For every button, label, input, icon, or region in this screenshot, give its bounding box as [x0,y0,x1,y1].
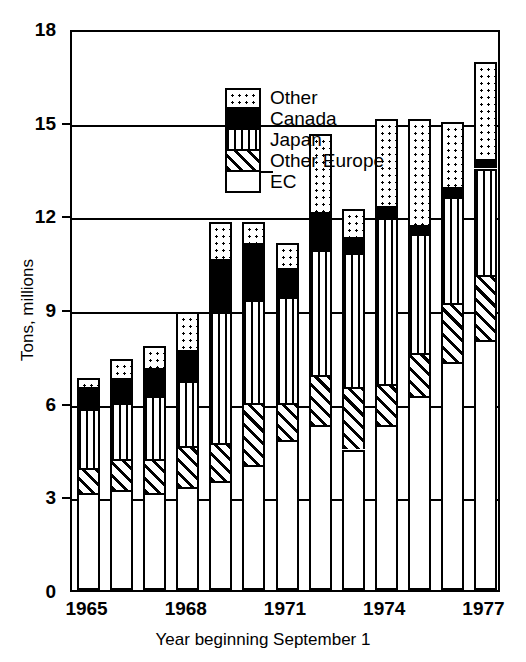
y-tick-label-3: 3 [4,488,56,507]
y-tick-label-18: 18 [4,20,56,39]
bar-segment-1968-ec[interactable] [176,487,199,590]
bar-segment-1976-japan[interactable] [441,197,464,303]
bar-segment-1967-other-europe[interactable] [143,459,166,493]
bar-segment-1972-canada[interactable] [309,212,332,249]
x-axis: 19651968197119741977 [70,596,500,626]
legend-item-other[interactable]: Other [225,88,455,109]
legend-swatch-japan [225,130,261,151]
x-tick-label-1968: 1968 [165,598,207,620]
bar-segment-1968-canada[interactable] [176,350,199,381]
y-tick-label-12: 12 [4,207,56,226]
bar-segment-1977-other[interactable] [474,62,497,159]
bar-segment-1968-other-europe[interactable] [176,446,199,487]
bar-segment-1970-japan[interactable] [242,300,265,403]
bar-segment-1970-other[interactable] [242,222,265,244]
bar-segment-1974-ec[interactable] [375,425,398,590]
legend-label-japan: Japan [270,129,322,150]
x-axis-title: Year beginning September 1 [0,630,526,650]
bar-segment-1968-japan[interactable] [176,381,199,447]
bar-segment-1967-ec[interactable] [143,493,166,590]
bar-segment-1965-canada[interactable] [77,387,100,409]
bar-segment-1974-canada[interactable] [375,206,398,218]
x-tick-label-1971: 1971 [264,598,306,620]
bar-segment-1974-japan[interactable] [375,218,398,383]
bar-segment-1976-other-europe[interactable] [441,303,464,362]
y-axis-title: Tons, millions [18,230,38,390]
bar-segment-1973-canada[interactable] [342,237,365,253]
bar-segment-1976-ec[interactable] [441,362,464,590]
bar-segment-1965-other-europe[interactable] [77,468,100,493]
bar-segment-1974-other-europe[interactable] [375,384,398,425]
legend-label-other: Other [270,87,318,108]
legend-swatch-canada [225,109,261,130]
legend-item-japan[interactable]: Japan [225,130,455,151]
bar-segment-1975-ec[interactable] [408,396,431,590]
y-tick-label-15: 15 [4,114,56,133]
bar-segment-1970-ec[interactable] [242,465,265,590]
bar-segment-1973-ec[interactable] [342,450,365,591]
bar-segment-1966-canada[interactable] [110,378,133,403]
legend-swatch-ec [225,172,261,193]
bar-segment-1973-japan[interactable] [342,253,365,387]
bar-segment-1977-japan[interactable] [474,169,497,275]
bar-segment-1966-ec[interactable] [110,490,133,590]
bar-segment-1969-japan[interactable] [209,312,232,443]
bar-segment-1969-other-europe[interactable] [209,443,232,480]
bar-segment-1969-ec[interactable] [209,481,232,590]
bar-segment-1977-other-europe[interactable] [474,275,497,341]
plot-area: OtherCanadaJapanOther EuropeEC [70,30,500,592]
bar-segment-1975-japan[interactable] [408,234,431,353]
legend-swatch-other [225,88,261,109]
bar-segment-1965-japan[interactable] [77,409,100,468]
x-tick-label-1965: 1965 [65,598,107,620]
bar-1967[interactable] [143,28,166,590]
legend-label-canada: Canada [270,108,337,129]
bar-segment-1977-ec[interactable] [474,340,497,590]
bar-segment-1969-other[interactable] [209,222,232,259]
bar-segment-1966-other-europe[interactable] [110,459,133,490]
y-tick-mark-9 [62,310,70,312]
legend-item-canada[interactable]: Canada [225,109,455,130]
x-tick-label-1974: 1974 [363,598,405,620]
y-tick-mark-3 [62,497,70,499]
bar-segment-1975-other-europe[interactable] [408,353,431,397]
legend-item-ec[interactable]: EC [225,172,455,193]
bar-segment-1965-ec[interactable] [77,493,100,590]
bar-segment-1965-other[interactable] [77,378,100,387]
legend-label-ec: EC [270,171,296,192]
y-tick-mark-6 [62,404,70,406]
bar-segment-1967-canada[interactable] [143,368,166,396]
bar-segment-1972-japan[interactable] [309,250,332,375]
bar-segment-1972-ec[interactable] [309,425,332,590]
bar-segment-1972-other-europe[interactable] [309,375,332,425]
bar-segment-1973-other[interactable] [342,209,365,237]
bar-segment-1971-canada[interactable] [276,268,299,296]
bar-segment-1966-other[interactable] [110,359,133,378]
bar-1966[interactable] [110,28,133,590]
bar-segment-1968-other[interactable] [176,312,199,349]
bar-segment-1971-other-europe[interactable] [276,403,299,440]
y-tick-label-0: 0 [4,582,56,601]
y-tick-label-6: 6 [4,395,56,414]
bar-segment-1967-japan[interactable] [143,396,166,458]
legend-item-other-europe[interactable]: Other Europe [225,151,455,172]
bar-segment-1969-canada[interactable] [209,259,232,312]
bar-segment-1970-canada[interactable] [242,243,265,299]
bar-segment-1975-canada[interactable] [408,225,431,234]
legend-swatch-other-europe [225,151,261,172]
y-tick-mark-12 [62,216,70,218]
y-tick-mark-15 [62,123,70,125]
bar-segment-1967-other[interactable] [143,346,166,368]
bar-segment-1971-ec[interactable] [276,440,299,590]
bar-1965[interactable] [77,28,100,590]
x-tick-label-1977: 1977 [462,598,504,620]
bar-segment-1971-japan[interactable] [276,297,299,403]
bar-1977[interactable] [474,28,497,590]
bar-segment-1977-canada[interactable] [474,159,497,168]
bar-segment-1971-other[interactable] [276,243,299,268]
bar-segment-1966-japan[interactable] [110,403,133,459]
legend: OtherCanadaJapanOther EuropeEC [225,88,455,193]
bar-segment-1970-other-europe[interactable] [242,403,265,465]
bar-segment-1973-other-europe[interactable] [342,387,365,449]
bar-1968[interactable] [176,28,199,590]
